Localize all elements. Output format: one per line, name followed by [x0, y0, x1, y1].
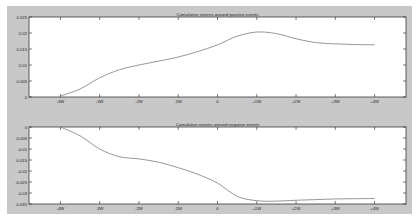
x-tick-label: -1W: [174, 206, 182, 211]
y-tick-label: -0.02: [17, 169, 27, 174]
axes-box: [29, 127, 406, 204]
y-tick-label: -0.015: [15, 158, 28, 163]
x-tick-label: +2W: [292, 99, 301, 104]
y-tick-label: -0.03: [17, 191, 27, 196]
y-tick-label: 0.015: [17, 47, 28, 52]
x-tick-label: -1W: [174, 99, 182, 104]
y-tick-label: 0.005: [17, 79, 28, 84]
y-tick-label: -0.035: [15, 202, 28, 207]
x-tick-label: -3W: [96, 99, 104, 104]
y-tick-label: -0.025: [15, 180, 28, 185]
x-tick-label: +4W: [370, 206, 379, 211]
x-tick-label: -4W: [57, 206, 65, 211]
x-tick-label: 0: [216, 206, 219, 211]
y-tick-label: 0.02: [19, 31, 28, 36]
x-tick-label: -2W: [135, 206, 143, 211]
y-tick-label: 0: [25, 125, 28, 130]
x-tick-label: -4W: [57, 99, 65, 104]
x-tick-label: +2W: [292, 206, 301, 211]
x-tick-label: +3W: [331, 99, 340, 104]
y-tick-label: -0.01: [17, 147, 27, 152]
y-tick-label: 0: [25, 95, 28, 100]
chart-title: Cumulative returns around positive event…: [176, 12, 259, 17]
plot-positive-events: Cumulative returns around positive event…: [17, 12, 406, 104]
x-tick-label: +1W: [252, 206, 261, 211]
axes-box: [29, 17, 406, 97]
x-tick-label: 0: [216, 99, 219, 104]
chart-title: Cumulative returns around negative event…: [176, 122, 261, 127]
x-tick-label: +3W: [331, 206, 340, 211]
x-tick-label: +1W: [252, 99, 261, 104]
y-tick-label: -0.005: [15, 136, 28, 141]
y-tick-label: 0.01: [19, 63, 28, 68]
chart-canvas: Cumulative returns around positive event…: [0, 0, 416, 219]
x-tick-label: -2W: [135, 99, 143, 104]
plot-negative-events: Cumulative returns around negative event…: [15, 122, 406, 211]
x-tick-label: +4W: [370, 99, 379, 104]
x-tick-label: -3W: [96, 206, 104, 211]
y-tick-label: 0.025: [17, 15, 28, 20]
